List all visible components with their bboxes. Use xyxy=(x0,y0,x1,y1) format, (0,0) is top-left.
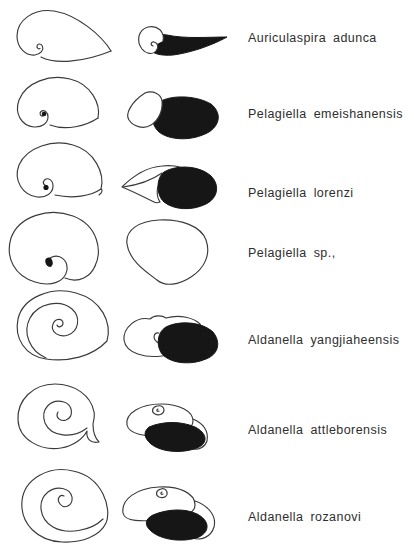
species-label: Aldanella attleborensis xyxy=(248,423,387,437)
apertural-view-drawing-pelagiella-emeishanensis xyxy=(121,90,221,140)
species-label: Aldanella yangjiaheensis xyxy=(248,333,399,347)
lateral-view-drawing-pelagiella-lorenzi xyxy=(15,141,105,203)
lateral-view-drawing-aldanella-attleborensis xyxy=(11,381,106,453)
species-label: Auriculaspira adunca xyxy=(248,31,377,45)
apertural-view-drawing-aldanella-yangjiaheensis xyxy=(120,312,222,366)
apertural-view-drawing-pelagiella-lorenzi xyxy=(118,158,222,214)
species-label: Pelagiella emeishanensis xyxy=(248,107,403,121)
apertural-view-drawing-auriculaspira-adunca xyxy=(123,22,230,66)
lateral-view-drawing-aldanella-yangjiaheensis xyxy=(12,289,112,363)
species-label: Pelagiella lorenzi xyxy=(248,186,354,200)
species-label: Aldanella rozanovi xyxy=(248,510,361,524)
apertural-view-drawing-aldanella-attleborensis xyxy=(119,401,219,456)
lateral-view-drawing-pelagiella-sp xyxy=(7,210,105,286)
lateral-view-drawing-pelagiella-emeishanensis xyxy=(14,76,106,134)
lateral-view-drawing-auriculaspira-adunca xyxy=(14,8,116,66)
apertural-view-drawing-pelagiella-sp xyxy=(119,216,214,288)
figure-plate: Auriculaspira adunca Pelagiella emeishan… xyxy=(0,0,414,550)
lateral-view-drawing-aldanella-rozanovi xyxy=(15,467,115,546)
apertural-view-drawing-aldanella-rozanovi xyxy=(117,483,222,543)
species-label: Pelagiella sp., xyxy=(248,246,336,260)
